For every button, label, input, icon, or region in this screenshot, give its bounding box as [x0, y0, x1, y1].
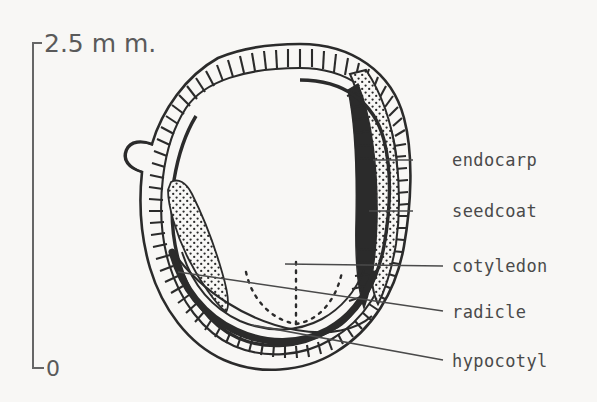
scale-bar: 2.5 m m. 0 — [33, 29, 156, 381]
label-seedcoat: seedcoat — [452, 201, 537, 221]
seed-cross-section — [125, 44, 411, 370]
seed-anatomy-figure: 2.5 m m. 0 — [0, 0, 597, 402]
label-hypocotyl: hypocotyl — [452, 351, 548, 371]
scale-bar-top-label: 2.5 m m. — [44, 29, 156, 58]
annotation-labels: endocarp seedcoat cotyledon radicle hypo… — [452, 150, 548, 371]
label-radicle: radicle — [452, 302, 526, 322]
label-endocarp: endocarp — [452, 150, 537, 170]
scale-bar-line — [33, 43, 43, 368]
scale-bar-bottom-label: 0 — [46, 356, 60, 381]
label-cotyledon: cotyledon — [452, 256, 548, 276]
diagram-canvas: 2.5 m m. 0 — [0, 0, 597, 402]
